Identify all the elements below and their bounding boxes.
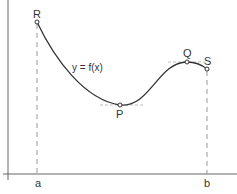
point-q-marker [185, 60, 189, 64]
point-p-marker [118, 103, 122, 107]
function-label: y = f(x) [72, 62, 103, 73]
x-label-a: a [35, 177, 42, 189]
point-r-label: R [33, 8, 41, 20]
point-q-label: Q [183, 47, 192, 59]
point-p-label: P [116, 108, 123, 120]
x-label-b: b [204, 177, 210, 189]
point-s-marker [205, 67, 209, 71]
function-curve [37, 22, 207, 105]
function-diagram: R P Q S y = f(x) a b [0, 0, 237, 194]
point-r-marker [35, 20, 39, 24]
point-s-label: S [204, 55, 211, 67]
